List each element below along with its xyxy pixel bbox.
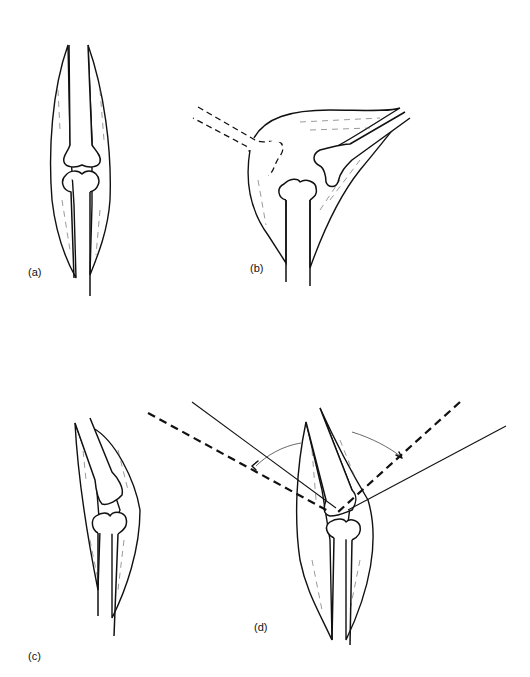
angle-arc-right (352, 432, 400, 456)
panel-b: (b) (193, 107, 410, 286)
dashed-femur-outline (193, 107, 283, 177)
arrow-head-left (252, 461, 258, 470)
panel-label-d: (d) (254, 621, 267, 633)
panel-label-b: (b) (250, 262, 263, 274)
panel-d: (d) (148, 402, 506, 645)
panel-a: (a) (28, 45, 110, 296)
solid-line-right (348, 426, 506, 510)
panel-label-a: (a) (28, 266, 41, 278)
panel-c: (c) (28, 418, 140, 662)
knee-joint-figure: (a) (b) (c) (0, 0, 530, 677)
panel-label-c: (c) (28, 650, 41, 662)
